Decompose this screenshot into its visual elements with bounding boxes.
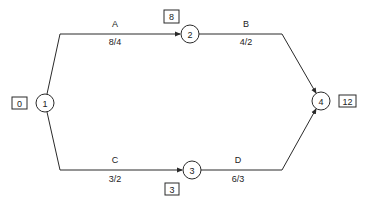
edge-c-value: 3/2 [109, 174, 122, 184]
node-3-label: 3 [189, 166, 194, 176]
edge-b: B 4/2 [199, 19, 316, 93]
edge-d: D 6/3 [201, 109, 316, 184]
node-3-time: 3 [169, 185, 174, 195]
node-4: 4 12 [312, 92, 356, 110]
edge-a-value: 8/4 [109, 37, 122, 47]
node-2-label: 2 [187, 30, 192, 40]
node-4-label: 4 [318, 97, 323, 107]
node-3: 3 3 [165, 161, 201, 195]
edge-d-name: D [235, 155, 242, 165]
edge-d-value: 6/3 [232, 174, 245, 184]
node-2: 2 8 [164, 10, 199, 43]
edge-c: C 3/2 [47, 112, 182, 184]
node-2-time: 8 [169, 12, 174, 22]
edge-b-value: 4/2 [240, 37, 253, 47]
edge-c-name: C [112, 155, 119, 165]
edge-a: A 8/4 [47, 19, 180, 94]
node-1: 1 0 [12, 94, 54, 112]
edge-a-name: A [112, 19, 118, 29]
node-1-label: 1 [42, 99, 47, 109]
node-4-time: 12 [342, 97, 352, 107]
edge-b-name: B [243, 19, 249, 29]
node-1-time: 0 [17, 99, 22, 109]
network-diagram: A 8/4 B 4/2 C 3/2 D 6/3 1 0 2 8 3 3 [0, 0, 367, 204]
